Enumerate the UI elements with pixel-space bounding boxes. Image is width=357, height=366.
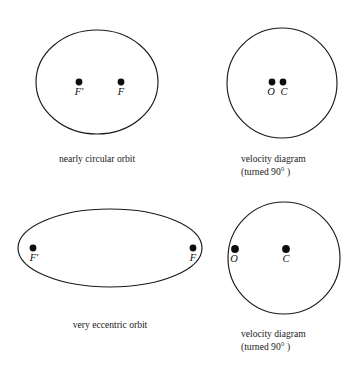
point-marker-f [190,245,197,252]
point-label-f: F [189,252,197,263]
orbit-outline [18,209,202,287]
panel-nearly-circular-orbit: F′Fnearly circular orbit [36,30,158,164]
figure-canvas: F′Fnearly circular orbitOCvelocity diagr… [0,0,357,366]
caption-line: (turned 90° ) [241,341,290,353]
point-marker-o [231,245,239,253]
orbit-velocity-figure: F′Fnearly circular orbitOCvelocity diagr… [0,0,357,366]
point-label-c: C [282,253,290,264]
point-marker-c [280,79,287,86]
caption-line: velocity diagram [241,328,306,339]
point-marker-c [282,245,290,253]
point-marker-f-prime [76,79,83,86]
point-marker-o [269,79,276,86]
caption-line: (turned 90° ) [241,166,290,178]
caption-line: nearly circular orbit [59,153,136,164]
point-label-f: F [117,86,125,97]
panel-very-eccentric-orbit: F′Fvery eccentric orbit [18,209,202,330]
orbit-outline [36,30,158,134]
point-label-c: C [280,86,288,97]
point-marker-f-prime [30,245,37,252]
point-label-f-prime: F′ [74,86,84,97]
caption-line: velocity diagram [241,153,306,164]
caption-line: very eccentric orbit [73,319,148,330]
panel-velocity-diagram-eccentric: OCvelocity diagram(turned 90° ) [228,202,340,353]
point-label-o: O [230,253,238,264]
panel-velocity-diagram-circular: OCvelocity diagram(turned 90° ) [227,28,337,178]
point-marker-f [118,79,125,86]
point-label-f-prime: F′ [29,252,39,263]
point-label-o: O [267,86,275,97]
